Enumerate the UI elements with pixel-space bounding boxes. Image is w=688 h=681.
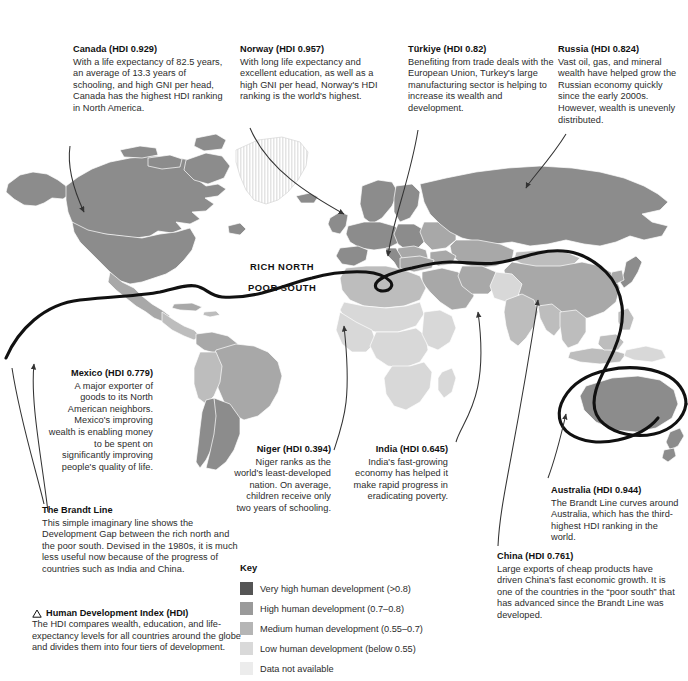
- region-east-africa: [422, 310, 456, 350]
- note-canada-body: With a life expectancy of 82.5 years, an…: [73, 57, 228, 115]
- note-australia: Australia (HDI 0.944) The Brandt Line cu…: [551, 485, 679, 544]
- note-turkiye-body: Benefiting from trade deals with the Eur…: [408, 57, 558, 115]
- note-india-title: India (HDI 0.645): [348, 444, 448, 456]
- key-swatch-low: [240, 642, 253, 655]
- country-new-zealand: [666, 428, 684, 450]
- key-item-no-data: Data not available: [240, 660, 423, 677]
- note-russia: Russia (HDI 0.824) Vast oil, gas, and mi…: [558, 44, 684, 126]
- key-label-medium: Medium human development (0.55–0.7): [260, 624, 423, 634]
- note-australia-body: The Brandt Line curves around Australia,…: [551, 498, 679, 544]
- country-iceland: [296, 193, 318, 203]
- key-swatch-high: [240, 602, 253, 615]
- triangle-icon: [32, 609, 42, 618]
- key-label-low: Low human development (below 0.55): [260, 644, 416, 654]
- country-alaska: [6, 172, 70, 206]
- key-label-no-data: Data not available: [260, 664, 334, 674]
- leader-brandt: [12, 368, 44, 504]
- note-australia-title: Australia (HDI 0.944): [551, 485, 679, 497]
- country-spain-portugal: [336, 246, 368, 266]
- key-item-medium: Medium human development (0.55–0.7): [240, 620, 423, 637]
- note-niger-body: Niger ranks as the world's least-develop…: [233, 457, 331, 515]
- key-heading: Key: [240, 562, 423, 573]
- key-swatch-very-high: [240, 582, 253, 595]
- country-new-zealand-south: [662, 448, 676, 462]
- note-turkiye: Türkiye (HDI 0.82) Benefiting from trade…: [408, 44, 558, 115]
- note-mexico: Mexico (HDI 0.779) A major exporter of g…: [48, 368, 153, 473]
- note-turkiye-title: Türkiye (HDI 0.82): [408, 44, 558, 56]
- note-brandt-line-title: The Brandt Line: [42, 505, 242, 517]
- note-canada: Canada (HDI 0.929) With a life expectanc…: [73, 44, 228, 115]
- island-victoria: [148, 155, 182, 169]
- key-label-very-high: Very high human development (>0.8): [260, 584, 411, 594]
- note-norway: Norway (HDI 0.957) With long life expect…: [240, 44, 380, 103]
- note-china-body: Large exports of cheap products have dri…: [497, 564, 679, 622]
- note-norway-body: With long life expectancy and excellent …: [240, 57, 380, 103]
- region-central-america: [162, 312, 200, 340]
- map-infographic: Canada (HDI 0.929) With a life expectanc…: [0, 0, 688, 681]
- note-china-title: China (HDI 0.761): [497, 551, 679, 563]
- note-india: India (HDI 0.645) India's fast-growing e…: [348, 444, 448, 503]
- key-item-very-high: Very high human development (>0.8): [240, 580, 423, 597]
- leader-india: [456, 312, 481, 442]
- note-norway-title: Norway (HDI 0.957): [240, 44, 380, 56]
- note-india-body: India's fast-growing economy has helped …: [348, 457, 448, 503]
- label-rich-north: RICH NORTH: [250, 261, 314, 272]
- key-item-high: High human development (0.7–0.8): [240, 600, 423, 617]
- island-banks: [120, 146, 158, 158]
- country-uk-ireland: [328, 212, 348, 234]
- country-bangladesh-myanmar: [538, 304, 562, 336]
- note-mexico-body: A major exporter of goods to its North A…: [48, 381, 153, 474]
- island-cuba: [172, 303, 202, 311]
- country-greenland: [236, 137, 308, 204]
- island-newfoundland: [228, 223, 246, 235]
- note-niger-title: Niger (HDI 0.394): [233, 444, 331, 456]
- map-key: Key Very high human development (>0.8) H…: [240, 562, 423, 680]
- region-central-europe: [394, 224, 426, 250]
- region-southern-africa: [384, 362, 432, 410]
- hdi-definition-body: The HDI compares wealth, education, and …: [32, 619, 246, 654]
- country-japan: [620, 256, 642, 288]
- note-russia-body: Vast oil, gas, and mineral wealth have h…: [558, 57, 684, 127]
- hdi-definition-title: Human Development Index (HDI): [46, 608, 188, 618]
- country-scandinavia: [360, 180, 398, 224]
- note-mexico-title: Mexico (HDI 0.779): [48, 368, 153, 380]
- key-swatch-medium: [240, 622, 253, 635]
- island-ellesmere: [194, 134, 226, 151]
- island-madagascar: [438, 368, 456, 398]
- label-poor-south: POOR SOUTH: [248, 282, 316, 293]
- note-russia-title: Russia (HDI 0.824): [558, 44, 684, 56]
- country-finland-baltics: [394, 184, 420, 222]
- country-peru-bolivia: [194, 352, 222, 404]
- region-central-africa: [370, 328, 428, 368]
- island-indonesia: [568, 348, 626, 364]
- leader-niger: [334, 326, 347, 450]
- key-label-high: High human development (0.7–0.8): [260, 604, 404, 614]
- country-india: [504, 294, 538, 346]
- island-hispaniola: [203, 311, 220, 317]
- key-item-low: Low human development (below 0.55): [240, 640, 423, 657]
- note-niger: Niger (HDI 0.394) Niger ranks as the wor…: [233, 444, 331, 515]
- key-swatch-no-data: [240, 662, 253, 675]
- country-russia: [420, 166, 668, 246]
- island-new-guinea: [624, 346, 666, 362]
- note-china: China (HDI 0.761) Large exports of cheap…: [497, 551, 679, 622]
- note-canada-title: Canada (HDI 0.929): [73, 44, 228, 56]
- note-brandt-line-body: This simple imaginary line shows the Dev…: [42, 518, 242, 576]
- region-sea-mainland: [560, 310, 586, 348]
- leader-australia: [548, 414, 566, 478]
- hdi-definition-block: Human Development Index (HDI) The HDI co…: [32, 608, 246, 654]
- hdi-definition-heading: Human Development Index (HDI): [32, 608, 246, 618]
- note-brandt-line: The Brandt Line This simple imaginary li…: [42, 505, 242, 576]
